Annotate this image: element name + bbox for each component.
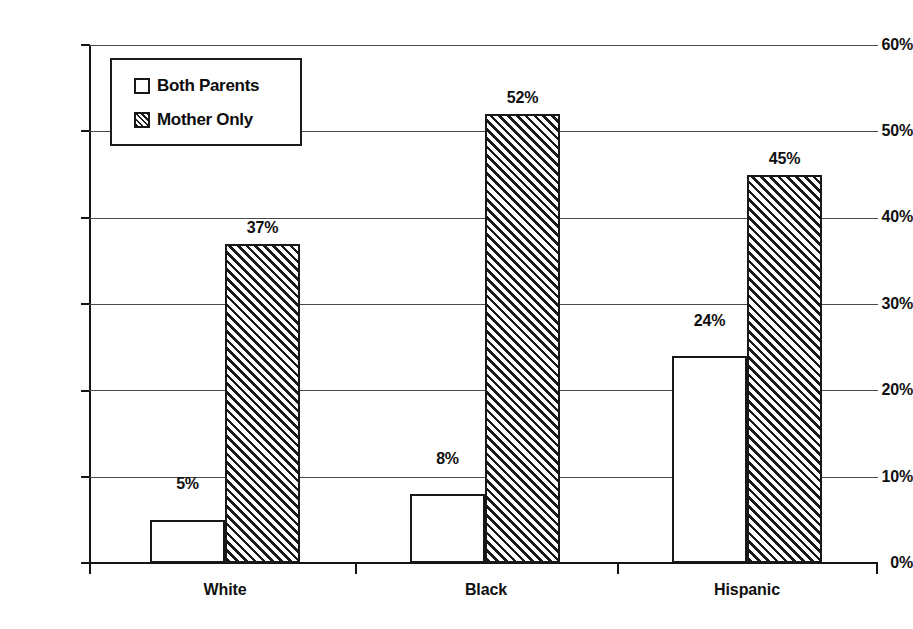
hatched-square-icon <box>134 112 150 128</box>
x-tick-right-edge <box>876 563 878 574</box>
legend-item-mother-only: Mother Only <box>112 103 300 137</box>
x-tick-left-edge <box>89 563 91 574</box>
value-label-black-mother-only: 52% <box>485 89 560 107</box>
value-label-hispanic-both-parents: 24% <box>672 312 747 330</box>
legend-label-mother-only: Mother Only <box>157 110 253 130</box>
value-label-white-mother-only: 37% <box>225 219 300 237</box>
x-category-label-hispanic: Hispanic <box>672 581 822 599</box>
empty-square-icon <box>134 78 150 94</box>
legend-item-both-parents: Both Parents <box>112 69 300 103</box>
bar-white-both-parents <box>150 520 225 563</box>
chart-legend: Both Parents Mother Only <box>110 58 302 146</box>
x-tick-separator-2 <box>617 563 619 574</box>
bar-hispanic-mother-only <box>747 175 822 563</box>
value-label-hispanic-mother-only: 45% <box>747 150 822 168</box>
value-label-white-both-parents: 5% <box>150 475 225 493</box>
bar-black-mother-only <box>485 114 560 563</box>
bar-black-both-parents <box>410 494 485 563</box>
bar-chart: 60% 50% 40% 30% 20% 10% 0% 5% 37% 8% 52%… <box>0 0 913 629</box>
bar-white-mother-only <box>225 244 300 563</box>
gridline-60 <box>89 45 878 46</box>
x-category-label-white: White <box>150 581 300 599</box>
legend-label-both-parents: Both Parents <box>157 76 259 96</box>
x-category-label-black: Black <box>411 581 561 599</box>
bar-hispanic-both-parents <box>672 356 747 563</box>
x-tick-separator-1 <box>355 563 357 574</box>
value-label-black-both-parents: 8% <box>410 450 485 468</box>
